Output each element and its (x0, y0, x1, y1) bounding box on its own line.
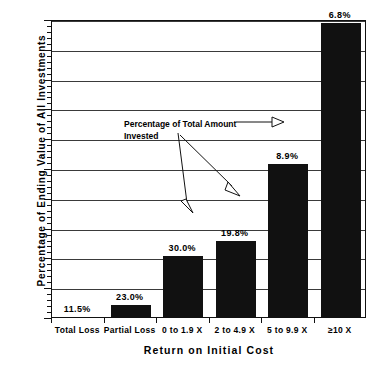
gridline (52, 51, 365, 52)
annotation-callout: Percentage of Total Amount Invested (124, 118, 240, 142)
bar-chart: Percentage of Ending Value of All Invest… (0, 0, 390, 367)
gridline (52, 110, 365, 111)
x-axis-title: Return on Initial Cost (51, 344, 367, 356)
y-axis-tick (44, 80, 51, 81)
gridline (52, 289, 365, 290)
bar-value-label: 8.9% (257, 151, 317, 161)
x-axis-tick (209, 318, 210, 323)
y-axis-tick (44, 199, 51, 200)
x-axis-category-label: ≥10 X (300, 325, 380, 335)
y-axis-tick (44, 20, 51, 21)
bar (216, 241, 256, 317)
gridline (52, 21, 365, 22)
y-axis-title: Percentage of Ending Value of All Invest… (36, 16, 47, 306)
y-axis-tick (44, 318, 51, 319)
x-axis-tick (156, 318, 157, 323)
x-axis-tick (104, 318, 105, 323)
y-axis-tick (44, 50, 51, 51)
bar (111, 305, 151, 317)
gridline (52, 170, 365, 171)
plot-area (51, 20, 366, 318)
gridline (52, 259, 365, 260)
x-axis-tick (261, 318, 262, 323)
y-axis-tick (44, 169, 51, 170)
x-axis-tick (314, 318, 315, 323)
y-axis-tick (44, 258, 51, 259)
annotation-line-1: Percentage of Total Amount (124, 119, 236, 129)
bar (163, 256, 203, 317)
bar-value-label: 19.8% (205, 228, 265, 238)
x-axis-tick (51, 318, 52, 323)
bar (321, 23, 361, 317)
bar-value-label: 30.0% (152, 243, 212, 253)
bar-value-label: 6.8% (310, 10, 370, 20)
bar-value-label: 23.0% (100, 292, 160, 302)
gridline (52, 81, 365, 82)
annotation-line-2: Invested (124, 131, 159, 141)
y-axis-tick (44, 109, 51, 110)
y-axis-tick (44, 229, 51, 230)
bar (268, 164, 308, 317)
y-axis-tick (44, 139, 51, 140)
bar-value-label: 11.5% (47, 304, 107, 314)
y-axis-tick (44, 288, 51, 289)
gridline (52, 200, 365, 201)
